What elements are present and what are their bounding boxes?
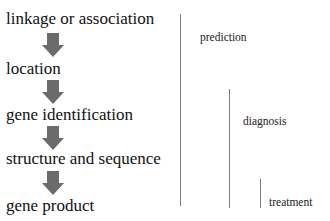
step-gene-identification: gene identification bbox=[6, 106, 133, 124]
treatment-divider bbox=[260, 179, 261, 208]
prediction-divider bbox=[180, 14, 181, 206]
label-diagnosis: diagnosis bbox=[243, 115, 286, 127]
down-arrow-icon bbox=[42, 171, 64, 195]
step-gene-product: gene product bbox=[6, 197, 94, 215]
down-arrow-icon bbox=[42, 126, 64, 150]
down-arrow-icon bbox=[42, 33, 64, 57]
label-treatment: treatment bbox=[269, 196, 312, 208]
step-location: location bbox=[6, 60, 61, 78]
label-prediction: prediction bbox=[200, 31, 247, 43]
down-arrow-icon bbox=[42, 80, 64, 104]
step-linkage-or-association: linkage or association bbox=[6, 10, 154, 28]
step-structure-and-sequence: structure and sequence bbox=[6, 150, 161, 168]
diagnosis-divider bbox=[229, 89, 230, 208]
